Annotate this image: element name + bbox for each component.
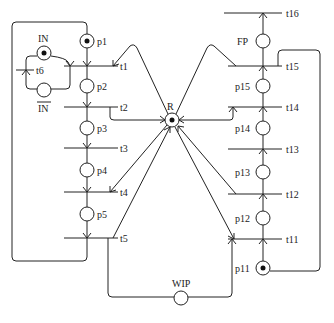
label-p13: p13 — [235, 167, 250, 178]
token-IN — [42, 51, 47, 56]
token-p11 — [261, 266, 266, 271]
label-t3: t3 — [120, 143, 128, 154]
label-t12: t12 — [286, 189, 299, 200]
label-t2: t2 — [120, 102, 128, 113]
label-t11: t11 — [286, 234, 298, 245]
token-p1 — [85, 39, 90, 44]
label-R: R — [167, 101, 174, 112]
label-p11: p11 — [235, 263, 250, 274]
label-p12: p12 — [235, 213, 250, 224]
place-p3 — [80, 121, 94, 135]
label-t16: t16 — [286, 8, 299, 19]
label-t5: t5 — [120, 233, 128, 244]
arc-R-t11 — [175, 127, 234, 239]
label-t6: t6 — [36, 65, 44, 76]
place-p14 — [256, 121, 270, 135]
place-p13 — [256, 165, 270, 179]
label-p1: p1 — [97, 36, 107, 47]
place-p15 — [256, 79, 270, 93]
label-IN-bar: IN — [38, 103, 49, 114]
arc-R-t15 — [176, 45, 236, 114]
label-p5: p5 — [97, 209, 107, 220]
place-p12 — [256, 211, 270, 225]
place-WIP — [174, 291, 188, 305]
place-FP — [256, 34, 270, 48]
label-WIP: WIP — [172, 278, 191, 289]
label-p4: p4 — [97, 165, 107, 176]
label-p3: p3 — [97, 123, 107, 134]
label-t1: t1 — [120, 61, 128, 72]
arc-IN-t1 — [51, 56, 70, 66]
label-t4: t4 — [120, 187, 128, 198]
arc-R-t14 — [179, 107, 233, 120]
arc-R-t4 — [110, 125, 167, 192]
arc-INbar-t1 — [51, 66, 70, 89]
arc-t5-WIP — [108, 238, 174, 297]
arc-WIP-t11 — [188, 239, 232, 297]
label-p14: p14 — [235, 123, 250, 134]
place-p4 — [80, 163, 94, 177]
arc-t12-R — [178, 126, 236, 194]
token-R — [170, 118, 175, 123]
label-t14: t14 — [286, 102, 299, 113]
label-t15: t15 — [286, 61, 299, 72]
place-p2 — [80, 79, 94, 93]
place-p5 — [80, 207, 94, 221]
arc-t2-R — [110, 107, 165, 120]
place-IN-bar — [37, 83, 51, 97]
label-FP: FP — [237, 36, 249, 47]
petri-net-diagram: p1 p2 p3 p4 p5 t1 t2 t3 t4 t5 IN IN t6 R — [0, 0, 334, 323]
label-p2: p2 — [97, 81, 107, 92]
label-p15: p15 — [235, 81, 250, 92]
label-t13: t13 — [286, 144, 299, 155]
label-IN: IN — [38, 33, 49, 44]
